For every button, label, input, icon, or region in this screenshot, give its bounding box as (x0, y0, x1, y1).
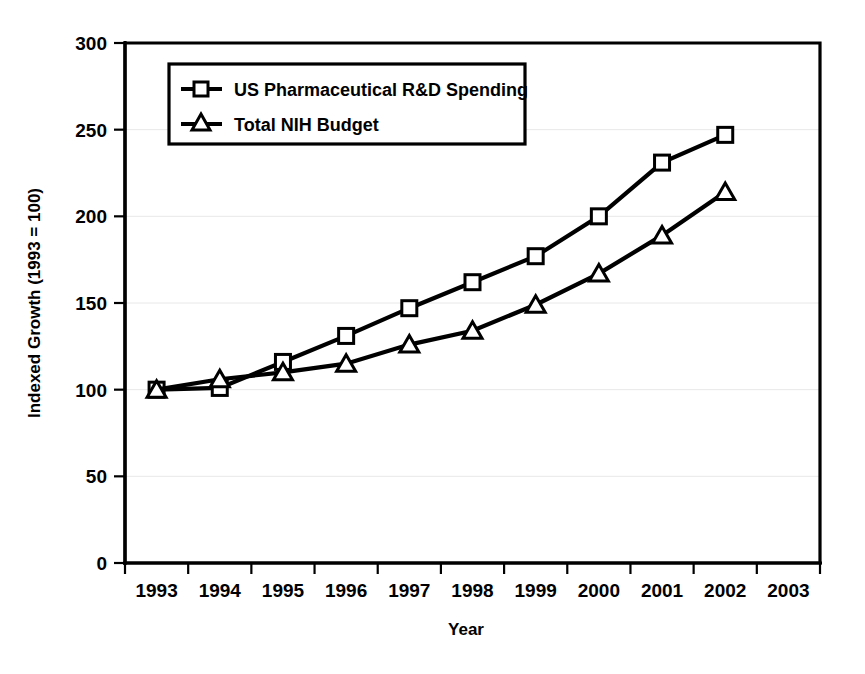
y-tick-label: 300 (75, 33, 107, 54)
legend-entry-0: US Pharmaceutical R&D Spending (181, 80, 528, 100)
x-tick-label: 1998 (451, 580, 493, 601)
x-axis-tick-labels: 1993199419951996199719981999200020012002… (135, 580, 809, 601)
legend-label-1: Total NIH Budget (234, 115, 379, 135)
chart-container: 050100150200250300 199319941995199619971… (0, 0, 865, 674)
y-tick-label: 250 (75, 120, 107, 141)
x-tick-label: 1995 (262, 580, 305, 601)
square-marker-icon (718, 127, 733, 142)
y-tick-label: 50 (86, 466, 107, 487)
legend: US Pharmaceutical R&D Spending Total NIH… (169, 64, 528, 144)
y-tick-label: 0 (96, 553, 107, 574)
x-tick-label: 1994 (199, 580, 242, 601)
x-tick-label: 2002 (704, 580, 746, 601)
x-axis-title: Year (448, 620, 484, 639)
x-tick-label: 1996 (325, 580, 367, 601)
square-marker-icon (591, 209, 606, 224)
x-tick-label: 2003 (767, 580, 809, 601)
square-marker-icon (655, 155, 670, 170)
square-marker-icon (528, 249, 543, 264)
line-chart: 050100150200250300 199319941995199619971… (0, 0, 865, 674)
square-marker-icon (465, 275, 480, 290)
square-marker-icon (402, 301, 417, 316)
square-marker-icon (194, 82, 208, 96)
x-tick-label: 1997 (388, 580, 430, 601)
x-tick-label: 1999 (515, 580, 557, 601)
y-tick-label: 100 (75, 380, 107, 401)
y-tick-label: 150 (75, 293, 107, 314)
legend-label-0: US Pharmaceutical R&D Spending (234, 80, 528, 100)
square-marker-icon (339, 328, 354, 343)
x-tick-label: 1993 (135, 580, 177, 601)
y-tick-label: 200 (75, 206, 107, 227)
x-tick-label: 2000 (578, 580, 620, 601)
y-axis-title: Indexed Growth (1993 = 100) (25, 188, 44, 418)
x-tick-label: 2001 (641, 580, 684, 601)
